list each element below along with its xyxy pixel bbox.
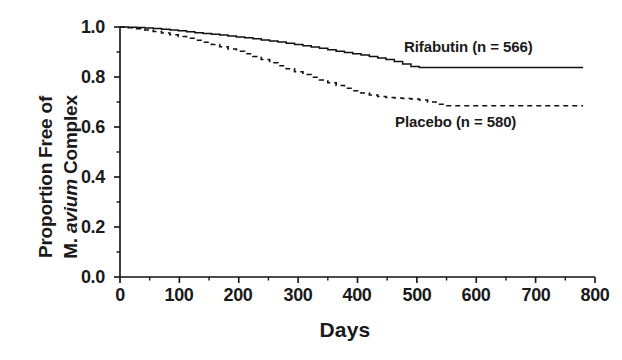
data-series [120,27,583,106]
series-line-rifabutin [120,27,583,68]
series-line-placebo [120,27,583,106]
chart-figure: Proportion Free of M. avium Complex Days… [0,0,622,360]
axes [114,27,595,283]
plot-area [0,0,622,360]
